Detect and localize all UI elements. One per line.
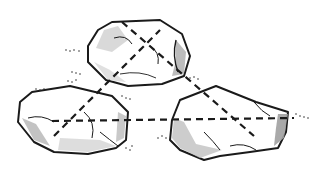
right-rock [170,86,288,160]
rocks-illustration [0,0,328,172]
top-rock [88,20,190,86]
left-rock [18,86,128,154]
